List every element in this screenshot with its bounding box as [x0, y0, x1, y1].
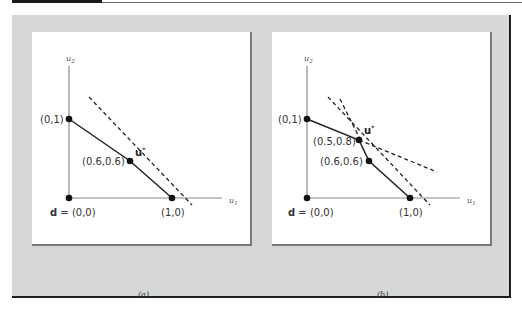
label-0.5-0.8: (0.5,0.8) — [313, 136, 356, 147]
point-0-1 — [304, 116, 311, 123]
point-0.6-0.6 — [366, 158, 373, 165]
panel-b-plot: u2 u1 (0,1) (0.5,0.8) (0.6,0.6) u* d = (… — [0, 0, 522, 321]
point-u-star — [356, 137, 363, 144]
label-0-1: (0,1) — [278, 114, 302, 125]
dashed-line-2-lower — [359, 140, 437, 172]
label-origin: d = (0,0) — [288, 207, 334, 218]
x-axis-label: u1 — [467, 196, 476, 206]
label-1-0: (1,0) — [399, 207, 423, 218]
caption-a: (a) — [138, 290, 149, 299]
label-0.6-0.6: (0.6,0.6) — [320, 156, 363, 167]
label-u-star: u* — [364, 124, 375, 136]
dashed-line-1 — [328, 97, 430, 205]
point-origin — [304, 195, 311, 202]
y-axis-label: u2 — [304, 54, 313, 64]
caption-b: (b) — [377, 290, 388, 299]
point-1-0 — [407, 195, 414, 202]
